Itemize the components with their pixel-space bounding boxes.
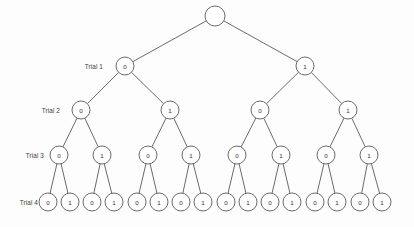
- node-label: 1: [303, 63, 307, 70]
- node-label: 1: [100, 152, 104, 159]
- node-label: 1: [290, 199, 294, 206]
- tree-edge: [283, 164, 290, 193]
- node-label: 1: [367, 152, 371, 159]
- node-label: 0: [313, 199, 317, 206]
- tree-node[interactable]: 1: [328, 193, 346, 211]
- tree-node[interactable]: 0: [172, 193, 190, 211]
- row-label-trial-1: Trial 1: [85, 63, 103, 70]
- tree-edge: [61, 164, 68, 193]
- tree-edge: [272, 164, 279, 193]
- node-label: 1: [246, 199, 250, 206]
- row-label-trial-2: Trial 2: [42, 107, 60, 114]
- tree-edge: [228, 164, 235, 193]
- tree-edge: [131, 72, 163, 103]
- tree-node[interactable]: 1: [296, 57, 314, 75]
- tree-edge: [330, 118, 344, 147]
- row-label-trial-4: Trial 4: [20, 199, 38, 206]
- tree-node[interactable]: 0: [39, 193, 57, 211]
- tree-node[interactable]: 1: [93, 146, 111, 164]
- node-label: 0: [258, 107, 262, 114]
- tree-node[interactable]: 0: [83, 193, 101, 211]
- tree-edge: [352, 118, 365, 147]
- tree-edge: [224, 21, 297, 62]
- node-label: 1: [68, 199, 72, 206]
- tree-node[interactable]: 1: [150, 193, 168, 211]
- node-label: 0: [135, 199, 139, 206]
- node-label: 1: [335, 199, 339, 206]
- tree-node[interactable]: 1: [272, 146, 290, 164]
- tree-edge: [311, 72, 341, 103]
- tree-node[interactable]: 0: [50, 146, 68, 164]
- node-circle[interactable]: [205, 6, 225, 26]
- tree-node[interactable]: 0: [251, 101, 269, 119]
- tree-edge: [139, 164, 146, 193]
- binary-tree-svg: 010101010101010101010101010101: [0, 0, 414, 227]
- tree-node[interactable]: 1: [161, 101, 179, 119]
- tree-node-root[interactable]: [205, 6, 225, 26]
- node-label: 0: [179, 199, 183, 206]
- tree-edge: [328, 164, 335, 193]
- node-label: 1: [168, 107, 172, 114]
- tree-edge: [63, 118, 77, 147]
- node-label: 0: [224, 199, 228, 206]
- tree-node[interactable]: 1: [61, 193, 79, 211]
- tree-node[interactable]: 0: [306, 193, 324, 211]
- tree-edge: [85, 118, 98, 147]
- tree-edge: [50, 164, 57, 193]
- tree-edge: [104, 164, 112, 194]
- node-label: 0: [146, 152, 150, 159]
- node-label: 0: [79, 107, 83, 114]
- tree-node[interactable]: 0: [261, 193, 279, 211]
- tree-edge: [241, 118, 256, 147]
- node-label: 1: [189, 152, 193, 159]
- tree-node[interactable]: 0: [116, 57, 134, 75]
- tree-node[interactable]: 1: [360, 146, 378, 164]
- tree-edge: [183, 164, 189, 193]
- tree-edge: [317, 164, 324, 193]
- node-label: 0: [268, 199, 272, 206]
- tree-node[interactable]: 0: [317, 146, 335, 164]
- node-label: 1: [279, 152, 283, 159]
- tree-edge: [174, 118, 187, 147]
- tree-edge: [362, 164, 368, 193]
- node-label: 0: [123, 63, 127, 70]
- tree-node[interactable]: 1: [283, 193, 301, 211]
- tree-node[interactable]: 1: [239, 193, 257, 211]
- tree-node[interactable]: 1: [182, 146, 200, 164]
- node-label: 0: [46, 199, 50, 206]
- node-label: 1: [157, 199, 161, 206]
- node-label: 1: [380, 199, 384, 206]
- node-label: 0: [57, 152, 61, 159]
- tree-edge: [371, 164, 379, 194]
- tree-edge: [152, 118, 166, 147]
- node-label: 0: [324, 152, 328, 159]
- node-label: 0: [235, 152, 239, 159]
- tree-edge: [239, 164, 246, 193]
- tree-node[interactable]: 0: [128, 193, 146, 211]
- node-label: 1: [112, 199, 116, 206]
- tree-node[interactable]: 0: [217, 193, 235, 211]
- tree-node[interactable]: 1: [105, 193, 123, 211]
- node-label: 0: [90, 199, 94, 206]
- node-label: 0: [358, 199, 362, 206]
- node-label: 1: [201, 199, 205, 206]
- node-layer: 010101010101010101010101010101: [39, 6, 391, 211]
- tree-edge: [87, 72, 118, 103]
- tree-node[interactable]: 1: [339, 101, 357, 119]
- tree-node[interactable]: 0: [72, 101, 90, 119]
- tree-node[interactable]: 0: [228, 146, 246, 164]
- tree-node[interactable]: 1: [373, 193, 391, 211]
- tree-node[interactable]: 1: [194, 193, 212, 211]
- tree-edge: [193, 164, 201, 194]
- node-label: 1: [346, 107, 350, 114]
- edge-layer: [50, 21, 380, 193]
- tree-edge: [94, 164, 100, 193]
- tree-node[interactable]: 0: [139, 146, 157, 164]
- tree-edge: [133, 21, 206, 62]
- tree-node[interactable]: 0: [351, 193, 369, 211]
- tree-diagram-canvas: 010101010101010101010101010101 Trial 1Tr…: [0, 0, 414, 227]
- tree-edge: [264, 118, 277, 147]
- tree-edge: [150, 164, 157, 193]
- tree-edge: [266, 72, 298, 103]
- row-label-trial-3: Trial 3: [26, 152, 44, 159]
